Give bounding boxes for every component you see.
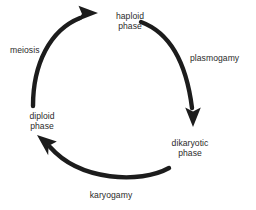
node-label-diploid-phase-line1: diploid xyxy=(10,111,74,121)
edge-label-meiosis: meiosis xyxy=(10,45,60,55)
fungal-life-cycle-diagram: haploid phase dikaryotic phase diploid p… xyxy=(0,0,256,210)
plasmogamy-arrow-shaft xyxy=(141,22,192,108)
karyogamy-arrow xyxy=(37,135,169,177)
node-label-dikaryotic-phase: dikaryotic phase xyxy=(158,138,222,158)
node-label-diploid-phase-line2: phase xyxy=(10,121,74,131)
node-label-haploid-phase-line2: phase xyxy=(98,21,162,31)
plasmogamy-arrow-head xyxy=(185,108,201,128)
node-label-haploid-phase: haploid phase xyxy=(98,11,162,31)
meiosis-arrow xyxy=(33,6,98,106)
edge-label-karyogamy: karyogamy xyxy=(78,190,144,200)
meiosis-arrow-shaft xyxy=(33,18,80,106)
node-label-diploid-phase: diploid phase xyxy=(10,111,74,131)
karyogamy-arrow-shaft xyxy=(50,147,169,177)
meiosis-arrow-head xyxy=(76,6,98,22)
edge-label-plasmogamy: plasmogamy xyxy=(190,53,252,63)
node-label-dikaryotic-phase-line1: dikaryotic xyxy=(158,138,222,148)
node-label-dikaryotic-phase-line2: phase xyxy=(158,148,222,158)
node-label-haploid-phase-line1: haploid xyxy=(98,11,162,21)
cycle-arrows xyxy=(0,0,256,210)
plasmogamy-arrow xyxy=(141,22,201,127)
